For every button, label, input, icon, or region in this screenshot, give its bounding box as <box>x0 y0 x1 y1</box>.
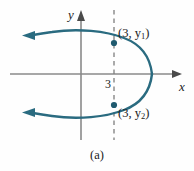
lower-branch-arrowhead <box>22 108 35 117</box>
x-axis-label: x <box>179 80 185 93</box>
parabola-figure: y x (3, y1) (3, y2) 3 (a) <box>0 0 194 171</box>
point-label-lower-text: (3, y <box>118 106 141 120</box>
point-label-upper-text: (3, y <box>118 26 141 40</box>
upper-branch-arrowhead <box>22 31 35 40</box>
point-label-upper: (3, y1) <box>118 27 149 41</box>
point-marker-lower <box>111 102 117 108</box>
figure-caption: (a) <box>0 148 194 163</box>
point-label-upper-close: ) <box>145 26 149 40</box>
y-axis-label: y <box>68 8 74 21</box>
point-marker-upper <box>111 40 117 46</box>
x-axis-arrowhead <box>172 70 182 78</box>
x-tick-label-3: 3 <box>105 78 111 90</box>
point-label-lower-close: ) <box>145 106 149 120</box>
plot-canvas <box>0 0 194 171</box>
y-axis-arrowhead <box>77 10 85 21</box>
point-label-lower: (3, y2) <box>118 107 149 121</box>
